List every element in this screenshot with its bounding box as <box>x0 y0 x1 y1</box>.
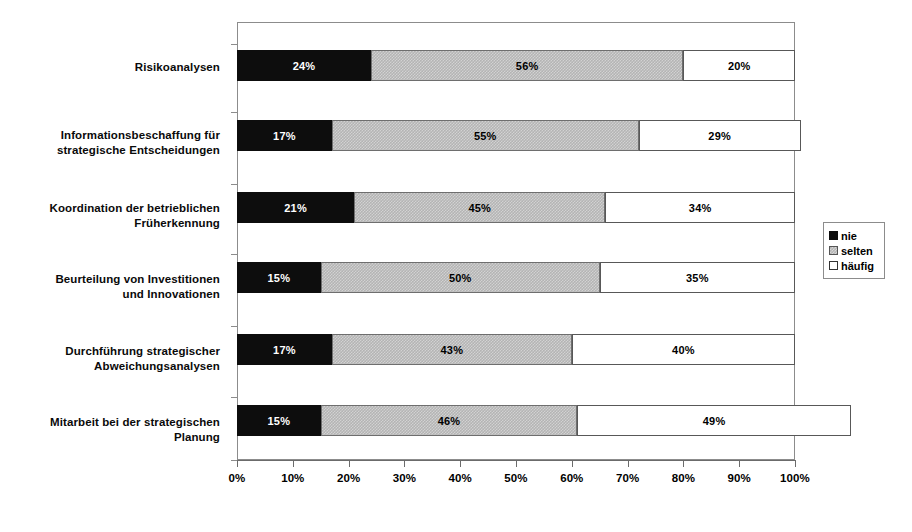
x-axis-tick <box>237 460 238 467</box>
bar-segment-nie: 24% <box>237 50 371 81</box>
category-label-line: Risikoanalysen <box>0 60 220 75</box>
bar-segment-nie: 15% <box>237 405 321 436</box>
x-axis-tick <box>349 460 350 467</box>
x-axis-tick <box>739 460 740 467</box>
x-axis-tick-label: 60% <box>560 472 583 484</box>
bar-row: 17%55%29% <box>237 120 795 151</box>
bars-layer: 24%56%20%17%55%29%21%45%34%15%50%35%17%4… <box>237 22 795 460</box>
x-axis-tick <box>795 460 796 467</box>
legend-item: nie <box>829 228 879 243</box>
x-axis-tick-label: 50% <box>504 472 527 484</box>
bar-segment-selten: 43% <box>332 334 572 365</box>
bar-segment-value-label: 34% <box>689 202 712 214</box>
white-swatch-icon <box>829 261 838 270</box>
category-label: Informationsbeschaffung fürstrategische … <box>0 128 220 157</box>
x-axis-tick <box>683 460 684 467</box>
y-axis-tick <box>231 44 237 45</box>
bar-segment-haeufig: 29% <box>639 120 801 151</box>
bar-segment-haeufig: 40% <box>572 334 795 365</box>
stacked-bar-chart: RisikoanalysenInformationsbeschaffung fü… <box>0 0 912 532</box>
x-axis-tick <box>572 460 573 467</box>
bar-segment-haeufig: 49% <box>577 405 850 436</box>
bar-segment-nie: 21% <box>237 192 354 223</box>
category-label-line: Früherkennung <box>0 216 220 231</box>
bar-segment-haeufig: 20% <box>683 50 795 81</box>
category-label-line: Abweichungsanalysen <box>0 359 220 374</box>
bar-segment-selten: 45% <box>354 192 605 223</box>
x-axis-tick <box>628 460 629 467</box>
bar-segment-value-label: 29% <box>708 130 731 142</box>
bar-row: 15%50%35% <box>237 262 795 293</box>
x-axis-tick-label: 30% <box>393 472 416 484</box>
bar-segment-value-label: 40% <box>672 344 695 356</box>
bar-segment-value-label: 21% <box>284 202 307 214</box>
bar-segment-value-label: 45% <box>468 202 491 214</box>
bar-segment-value-label: 24% <box>293 60 316 72</box>
y-axis-tick <box>231 112 237 113</box>
legend-item-label: selten <box>841 245 873 257</box>
bar-segment-nie: 17% <box>237 120 332 151</box>
bar-segment-value-label: 43% <box>441 344 464 356</box>
category-label-line: Informationsbeschaffung für <box>0 128 220 143</box>
legend-item: häufig <box>829 258 879 273</box>
bar-segment-selten: 50% <box>321 262 600 293</box>
gray-hatch-swatch-icon <box>829 246 838 255</box>
category-label-line: strategische Entscheidungen <box>0 143 220 158</box>
x-axis-tick-label: 20% <box>337 472 360 484</box>
category-label-line: Koordination der betrieblichen <box>0 201 220 216</box>
bar-row: 21%45%34% <box>237 192 795 223</box>
legend-item-label: häufig <box>841 260 874 272</box>
bar-row: 17%43%40% <box>237 334 795 365</box>
bar-row: 24%56%20% <box>237 50 795 81</box>
bar-segment-selten: 46% <box>321 405 578 436</box>
category-label-line: und Innovationen <box>0 287 220 302</box>
bar-segment-nie: 17% <box>237 334 332 365</box>
category-label-line: Durchführung strategischer <box>0 344 220 359</box>
bar-segment-nie: 15% <box>237 262 321 293</box>
category-label-line: Mitarbeit bei der strategischen <box>0 415 220 430</box>
legend-item-label: nie <box>841 230 857 242</box>
x-axis-tick <box>516 460 517 467</box>
bar-row: 15%46%49% <box>237 405 795 436</box>
category-label: Beurteilung von Investitionenund Innovat… <box>0 272 220 301</box>
legend-item: selten <box>829 243 879 258</box>
x-axis-tick-label: 0% <box>229 472 246 484</box>
black-swatch-icon <box>829 231 838 240</box>
x-axis-tick <box>293 460 294 467</box>
x-axis-tick-label: 100% <box>780 472 810 484</box>
bar-segment-value-label: 17% <box>273 344 296 356</box>
bar-segment-value-label: 46% <box>438 415 461 427</box>
bar-segment-value-label: 17% <box>273 130 296 142</box>
bar-segment-selten: 56% <box>371 50 683 81</box>
x-axis-tick <box>404 460 405 467</box>
bar-segment-value-label: 55% <box>474 130 497 142</box>
x-axis-tick-label: 70% <box>616 472 639 484</box>
y-axis-tick <box>231 326 237 327</box>
x-axis-tick-label: 90% <box>728 472 751 484</box>
x-axis-tick-label: 10% <box>281 472 304 484</box>
bar-segment-value-label: 56% <box>516 60 539 72</box>
bar-segment-value-label: 49% <box>703 415 726 427</box>
x-axis-tick-label: 80% <box>672 472 695 484</box>
y-axis-tick <box>231 460 237 461</box>
y-axis-tick <box>231 184 237 185</box>
legend: nieseltenhäufig <box>823 222 885 279</box>
category-label: Durchführung strategischerAbweichungsana… <box>0 344 220 373</box>
category-label-line: Planung <box>0 430 220 445</box>
y-axis-tick <box>231 254 237 255</box>
bar-segment-value-label: 15% <box>268 415 291 427</box>
bar-segment-value-label: 50% <box>449 272 472 284</box>
category-label: Risikoanalysen <box>0 60 220 75</box>
category-label: Mitarbeit bei der strategischenPlanung <box>0 415 220 444</box>
x-axis-tick <box>460 460 461 467</box>
bar-segment-haeufig: 34% <box>605 192 795 223</box>
bar-segment-haeufig: 35% <box>600 262 795 293</box>
bar-segment-selten: 55% <box>332 120 639 151</box>
bar-segment-value-label: 20% <box>728 60 751 72</box>
bar-segment-value-label: 35% <box>686 272 709 284</box>
x-axis-tick-label: 40% <box>449 472 472 484</box>
y-axis-tick <box>231 397 237 398</box>
category-label: Koordination der betrieblichenFrüherkenn… <box>0 201 220 230</box>
category-axis-labels: RisikoanalysenInformationsbeschaffung fü… <box>0 38 228 448</box>
bar-segment-value-label: 15% <box>268 272 291 284</box>
